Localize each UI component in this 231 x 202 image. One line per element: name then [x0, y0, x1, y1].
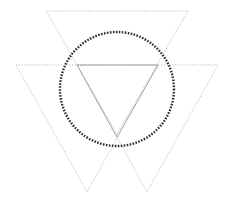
dotted-circle	[60, 32, 174, 146]
diagram-canvas	[0, 0, 231, 202]
inner-solid-triangle	[77, 65, 158, 137]
